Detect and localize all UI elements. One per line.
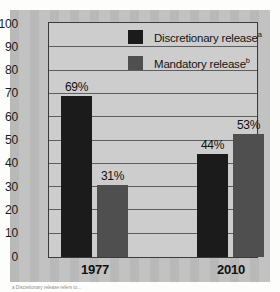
bar-label-1977-discretionary: 69% <box>65 80 88 94</box>
bar-1977-discretionary <box>61 96 92 257</box>
bar-label-2010-mandatory: 53% <box>237 118 260 132</box>
figure-panel: 69%31%44%53% 1009080706050403020100 1977… <box>10 10 270 282</box>
legend-swatch-mandatory <box>128 56 143 70</box>
legend-marker-mandatory: b <box>246 56 250 65</box>
legend-label-mandatory-text: Mandatory release <box>154 58 246 70</box>
legend-label-discretionary-text: Discretionary release <box>154 32 258 44</box>
x-axis-label-2010: 2010 <box>217 262 245 277</box>
y-axis-tick-0: 0 <box>0 250 18 264</box>
x-axis-label-1977: 1977 <box>81 262 109 277</box>
y-axis-tick-10: 10 <box>0 226 18 240</box>
y-axis-tick-50: 50 <box>0 133 18 147</box>
bar-label-1977-mandatory: 31% <box>101 169 124 183</box>
y-axis-tick-70: 70 <box>0 86 18 100</box>
y-axis-tick-20: 20 <box>0 203 18 217</box>
bar-1977-mandatory <box>97 185 128 257</box>
legend-item-mandatory: Mandatory releaseb <box>128 50 258 76</box>
y-axis-tick-40: 40 <box>0 156 18 170</box>
y-axis-tick-80: 80 <box>0 63 18 77</box>
y-axis-tick-60: 60 <box>0 110 18 124</box>
bar-2010-mandatory <box>233 134 264 257</box>
bar-2010-discretionary <box>197 154 228 257</box>
y-axis-tick-100: 100 <box>0 17 18 31</box>
legend-swatch-discretionary <box>128 30 143 44</box>
chart-footnote: a Discretionary release refers to... <box>12 285 268 290</box>
bar-label-2010-discretionary: 44% <box>201 138 224 152</box>
legend-item-discretionary: Discretionary releasea <box>128 24 258 50</box>
y-axis-tick-30: 30 <box>0 180 18 194</box>
legend-marker-discretionary: a <box>258 30 262 39</box>
y-axis-tick-90: 90 <box>0 40 18 54</box>
legend-label-mandatory: Mandatory releaseb <box>154 56 250 70</box>
chart-legend: Discretionary releasea Mandatory release… <box>128 24 258 76</box>
legend-label-discretionary: Discretionary releasea <box>154 30 262 44</box>
